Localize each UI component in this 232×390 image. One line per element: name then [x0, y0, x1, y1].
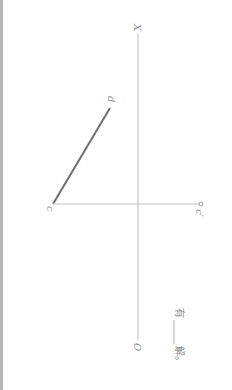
- caption: 有 解。: [174, 308, 186, 366]
- axis-label-x: X: [132, 23, 143, 32]
- point-label-c-prime: c′: [194, 209, 205, 218]
- caption-suffix: 解。: [174, 346, 186, 366]
- axis-label-o: O: [132, 343, 143, 351]
- projection-diagram: X O d c c′ 有 解。: [0, 0, 232, 390]
- point-label-d: d: [106, 96, 117, 102]
- segment-dc: [53, 108, 110, 204]
- point-label-c: c: [45, 206, 56, 212]
- caption-prefix: 有: [174, 308, 186, 318]
